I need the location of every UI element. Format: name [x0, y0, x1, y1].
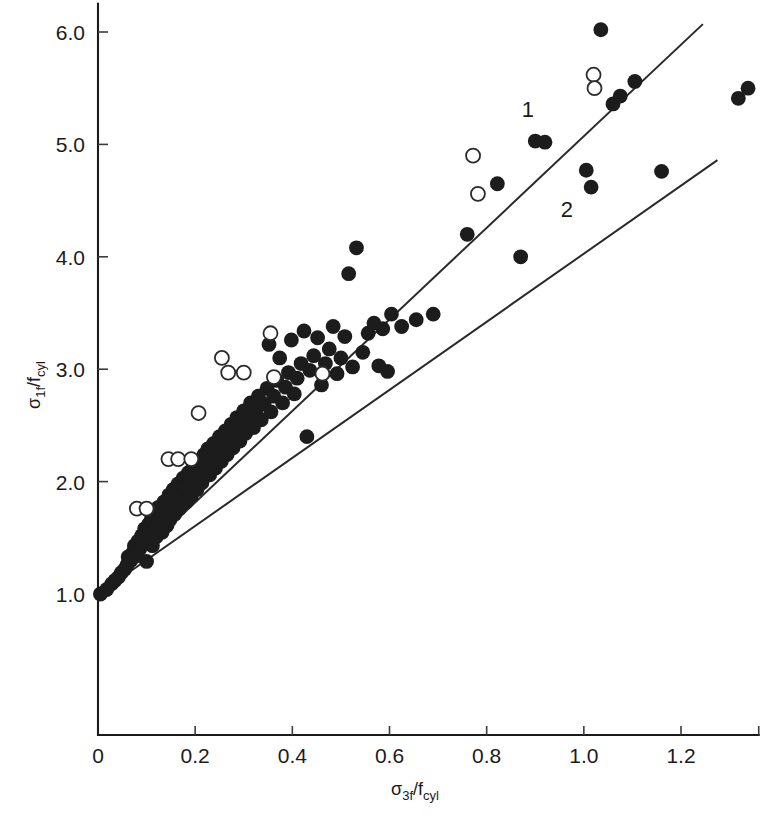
data-point-open [267, 370, 281, 384]
data-point-open [588, 81, 602, 95]
fit-lines [98, 24, 717, 594]
data-point-filled [341, 266, 356, 281]
data-point-filled [380, 364, 395, 379]
data-point-filled [284, 333, 299, 348]
data-point-filled [139, 554, 154, 569]
y-tick-label: 2.0 [56, 471, 85, 494]
data-point-open [315, 367, 329, 381]
data-point-filled [290, 371, 305, 386]
data-point-open [215, 351, 229, 365]
data-point-filled [287, 387, 302, 402]
data-point-filled [627, 74, 642, 89]
data-point-filled [326, 319, 341, 334]
data-point-filled [593, 22, 608, 37]
y-tick-label: 4.0 [56, 246, 85, 269]
data-point-filled [297, 324, 312, 339]
data-point-open [587, 68, 601, 82]
data-point-filled [584, 180, 599, 195]
data-point-filled [334, 351, 349, 366]
data-point-filled [741, 81, 756, 96]
axes [98, 4, 759, 735]
y-tick-label: 6.0 [56, 21, 85, 44]
data-point-filled [355, 345, 370, 360]
data-point-filled [272, 351, 287, 366]
x-tick-label: 0 [92, 744, 104, 767]
data-point-open [221, 366, 235, 380]
x-tick-label: 1.0 [569, 744, 598, 767]
data-point-filled [310, 330, 325, 345]
data-point-open [466, 149, 480, 163]
data-point-filled [490, 176, 505, 191]
data-point-open [171, 452, 185, 466]
data-point-filled [654, 164, 669, 179]
x-tick-label: 0.8 [472, 744, 501, 767]
data-point-open [184, 452, 198, 466]
curve-annotations: 12 [522, 97, 573, 222]
data-point-filled [513, 249, 528, 264]
axis-frame [98, 4, 759, 735]
data-point-filled [275, 396, 290, 411]
fit-line-2 [98, 160, 717, 594]
data-point-filled [460, 227, 475, 242]
chart-figure: 00.20.40.60.81.01.21.02.03.04.05.06.0 12… [0, 0, 783, 824]
data-point-open [237, 366, 251, 380]
x-axis-title: σ3f/fcyl [391, 779, 439, 803]
data-point-open [471, 187, 485, 201]
curve-label-1: 1 [522, 97, 534, 122]
data-point-filled [264, 405, 279, 420]
data-point-filled [538, 135, 553, 150]
data-point-open [140, 502, 154, 516]
y-tick-label: 1.0 [56, 583, 85, 606]
data-point-filled [300, 429, 315, 444]
data-point-filled [322, 342, 337, 357]
data-point-filled [349, 240, 364, 255]
data-point-open [192, 406, 206, 420]
data-point-filled [409, 312, 424, 327]
x-tick-label: 0.4 [278, 744, 308, 767]
data-point-filled [345, 360, 360, 375]
data-point-open [263, 326, 277, 340]
data-point-filled [375, 321, 390, 336]
data-point-filled [337, 329, 352, 344]
data-point-filled [330, 366, 345, 381]
scatter-plot: 00.20.40.60.81.01.21.02.03.04.05.06.0 12… [0, 0, 783, 824]
tick-marks [98, 32, 681, 735]
y-axis-title: σ1f/fcyl [24, 361, 48, 409]
data-point-filled [384, 307, 399, 322]
x-tick-label: 1.2 [666, 744, 695, 767]
x-tick-label: 0.6 [375, 744, 404, 767]
y-tick-label: 3.0 [56, 358, 85, 381]
y-tick-label: 5.0 [56, 133, 85, 156]
data-point-filled [613, 89, 628, 104]
data-point-filled [579, 163, 594, 178]
curve-label-2: 2 [561, 197, 573, 222]
data-point-filled [394, 319, 409, 334]
tick-labels: 00.20.40.60.81.01.21.02.03.04.05.06.0 [56, 21, 696, 767]
data-points [93, 22, 755, 601]
x-tick-label: 0.2 [181, 744, 210, 767]
data-point-filled [426, 307, 441, 322]
